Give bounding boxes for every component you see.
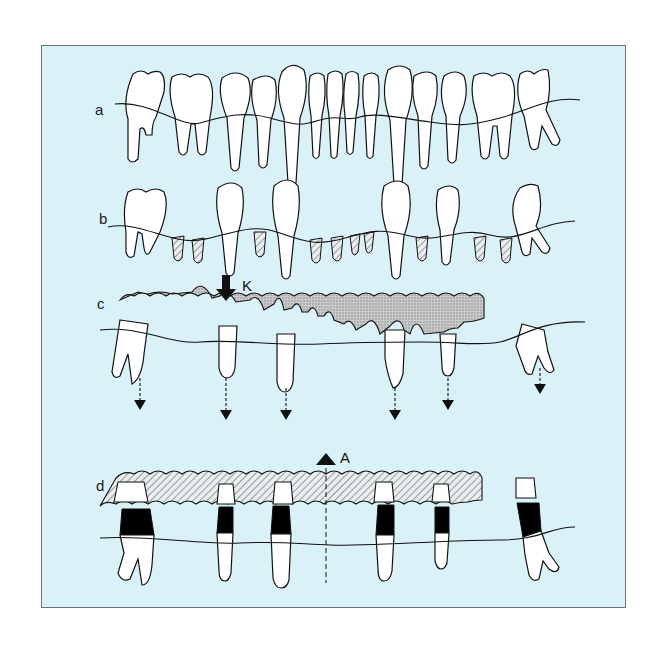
panel-c-intrusion-arrows <box>134 368 546 420</box>
marker-k-label: K <box>242 278 252 293</box>
panel-b-teeth <box>124 180 550 279</box>
panel-d-copings <box>120 503 541 537</box>
panel-label-c: c <box>97 296 105 311</box>
a-lift-arrow-icon <box>316 453 336 465</box>
dental-diagram <box>0 0 665 653</box>
panel-c-abutments <box>112 320 554 392</box>
panel-c-denture-base <box>120 286 484 334</box>
panel-label-b: b <box>99 211 107 226</box>
panel-label-a: a <box>95 102 103 117</box>
panel-label-d: d <box>96 478 104 493</box>
panel-c-gumline <box>100 322 585 345</box>
panel-d-gumline <box>100 527 575 545</box>
marker-a-label: A <box>340 450 350 465</box>
panel-a-teeth <box>126 65 560 188</box>
